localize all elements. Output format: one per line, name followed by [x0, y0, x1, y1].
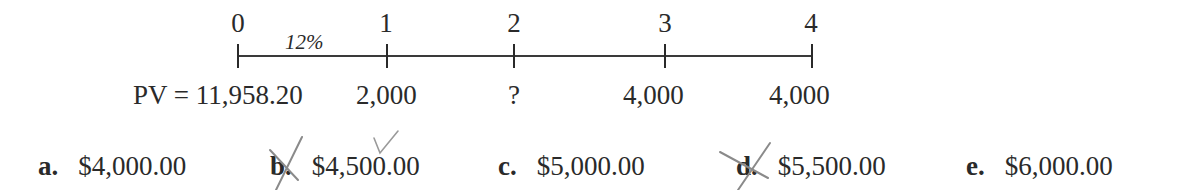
cross-out-icon — [720, 143, 770, 190]
checkmark-icon — [374, 131, 398, 153]
cross-out-icon — [270, 137, 302, 190]
pencil-marks — [0, 0, 1182, 190]
